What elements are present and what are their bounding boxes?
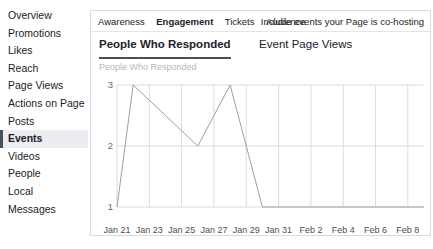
line-chart-svg [95, 73, 426, 223]
sidebar-item-messages[interactable]: Messages [0, 201, 88, 219]
x-axis-tick-label: Feb 4 [332, 225, 355, 236]
chart-caption: People Who Responded [99, 61, 430, 73]
x-axis-tick-label: Jan 29 [233, 225, 260, 236]
x-axis-tick-label: Feb 6 [364, 225, 387, 236]
x-axis-ticks: Jan 21Jan 23Jan 25Jan 27Jan 29Jan 31Feb … [95, 223, 426, 239]
sidebar-item-promotions[interactable]: Promotions [0, 25, 88, 43]
events-insights-panel: Awareness Engagement Tickets Audience In… [90, 10, 431, 236]
x-axis-tick-label: Jan 21 [103, 225, 130, 236]
tab-bar: Awareness Engagement Tickets Audience In… [91, 11, 430, 32]
sidebar-item-overview[interactable]: Overview [0, 7, 88, 25]
x-axis-tick-label: Feb 2 [299, 225, 322, 236]
tab-awareness[interactable]: Awareness [98, 11, 145, 32]
sidebar-item-likes[interactable]: Likes [0, 42, 88, 60]
sidebar-item-actions-on-page[interactable]: Actions on Page [0, 95, 88, 113]
subtab-people-who-responded[interactable]: People Who Responded [99, 32, 231, 59]
horizontal-gridlines [117, 85, 424, 207]
sub-tab-bar: People Who Responded Event Page Views [91, 32, 430, 57]
x-axis-tick-label: Jan 31 [265, 225, 292, 236]
tab-engagement[interactable]: Engagement [156, 11, 213, 32]
plot-area: 321 [95, 73, 426, 223]
tab-tickets[interactable]: Tickets [225, 11, 255, 32]
sidebar-item-local[interactable]: Local [0, 183, 88, 201]
y-axis-tick-label: 2 [99, 141, 113, 151]
sidebar-item-page-views[interactable]: Page Views [0, 77, 88, 95]
subtab-event-page-views[interactable]: Event Page Views [259, 32, 352, 56]
sidebar-item-people[interactable]: People [0, 165, 88, 183]
sidebar-item-reach[interactable]: Reach [0, 60, 88, 78]
chart-container: People Who Responded 321 Jan 21Jan 23Jan… [91, 57, 430, 239]
x-axis-tick-label: Jan 25 [168, 225, 195, 236]
sidebar: Overview Promotions Likes Reach Page Vie… [0, 0, 88, 249]
x-axis-tick-label: Jan 23 [136, 225, 163, 236]
y-axis-tick-label: 1 [99, 202, 113, 212]
sidebar-item-posts[interactable]: Posts [0, 113, 88, 131]
x-axis-tick-label: Jan 27 [200, 225, 227, 236]
x-axis-tick-label: Feb 8 [396, 225, 419, 236]
y-axis-tick-label: 3 [99, 80, 113, 90]
sidebar-item-videos[interactable]: Videos [0, 148, 88, 166]
sidebar-item-events[interactable]: Events [0, 130, 88, 148]
cohost-note: Include events your Page is co-hosting [261, 11, 424, 32]
